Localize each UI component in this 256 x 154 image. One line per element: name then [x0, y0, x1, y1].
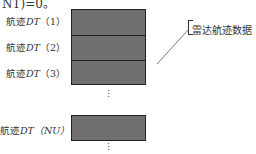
callout-label: 雷达航迹数据	[192, 22, 252, 37]
